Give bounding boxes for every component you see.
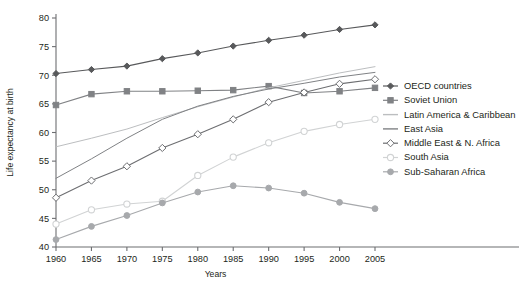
series-east-asia [56, 72, 375, 178]
series-line [56, 79, 375, 197]
chart-svg: 404550556065707580 196019651970197519801… [0, 0, 531, 292]
legend-label: East Asia [404, 123, 444, 134]
data-point-open-diamond [387, 140, 394, 147]
data-point-open-circle [195, 172, 201, 178]
legend-label: Latin America & Caribbean [404, 109, 516, 120]
series-line [56, 25, 375, 74]
data-point-open-diamond [52, 194, 59, 201]
data-point-filled-square [231, 87, 236, 92]
data-point-filled-circle [230, 183, 236, 189]
data-point-filled-diamond [195, 50, 201, 56]
data-point-filled-circle [124, 213, 130, 219]
y-tick-label: 65 [39, 99, 49, 109]
x-tick-label: 1980 [188, 254, 208, 264]
legend-item-sub-saharan-africa[interactable]: Sub-Saharan Africa [383, 166, 486, 177]
data-point-filled-circle [89, 223, 95, 229]
data-point-open-diamond [230, 116, 237, 123]
legend-label: South Asia [404, 151, 450, 162]
legend-item-east-asia[interactable]: East Asia [383, 123, 444, 134]
data-point-open-circle [88, 207, 94, 213]
data-point-open-circle [372, 116, 378, 122]
data-point-filled-diamond [301, 32, 307, 38]
data-point-filled-circle [159, 200, 165, 206]
data-point-open-circle [336, 121, 342, 127]
legend-item-latin-america-caribbean[interactable]: Latin America & Caribbean [383, 109, 516, 120]
data-point-open-diamond [371, 76, 378, 83]
data-point-filled-square [53, 102, 58, 107]
y-tick-label: 40 [39, 242, 49, 252]
legend-label: Sub-Saharan Africa [404, 166, 486, 177]
data-point-filled-circle [53, 237, 59, 243]
y-tick-label: 75 [39, 42, 49, 52]
data-point-filled-diamond [159, 56, 165, 62]
data-point-filled-square [124, 89, 129, 94]
data-point-open-diamond [194, 131, 201, 138]
data-point-filled-square [89, 91, 94, 96]
data-point-filled-diamond [336, 26, 342, 32]
x-tick-label: 1960 [46, 254, 66, 264]
series-south-asia [53, 116, 378, 227]
y-tick-label: 60 [39, 128, 49, 138]
series-group [52, 22, 378, 243]
y-tick-label: 55 [39, 156, 49, 166]
y-tick-label: 50 [39, 185, 49, 195]
y-axis-title: Life expectancy at birth [5, 88, 15, 177]
y-tick-label: 80 [39, 13, 49, 23]
data-point-open-circle [53, 221, 59, 227]
legend-item-south-asia[interactable]: South Asia [383, 151, 450, 162]
x-axis-ticks: 1960196519701975198019851990199520002005 [46, 247, 385, 264]
data-point-filled-square [337, 89, 342, 94]
data-point-open-circle [230, 154, 236, 160]
data-point-filled-square [195, 88, 200, 93]
data-point-filled-diamond [266, 37, 272, 43]
series-soviet-union [53, 83, 377, 107]
data-point-filled-diamond [88, 66, 94, 72]
x-tick-label: 1975 [152, 254, 172, 264]
data-point-open-diamond [265, 99, 272, 106]
data-point-filled-circle [301, 190, 307, 196]
series-middle-east-n-africa [52, 76, 378, 202]
x-tick-label: 1990 [258, 254, 278, 264]
y-tick-label: 45 [39, 214, 49, 224]
data-point-open-diamond [336, 80, 343, 87]
legend-item-oecd-countries[interactable]: OECD countries [383, 80, 472, 91]
data-point-open-circle [124, 201, 130, 207]
legend-label: OECD countries [404, 80, 472, 91]
x-tick-label: 1970 [117, 254, 137, 264]
life-expectancy-chart: 404550556065707580 196019651970197519801… [0, 0, 531, 292]
data-point-filled-circle [266, 185, 272, 191]
data-point-filled-circle [388, 169, 394, 175]
data-point-open-circle [301, 128, 307, 134]
series-sub-saharan-africa [53, 183, 378, 243]
data-point-filled-circle [337, 199, 343, 205]
legend-item-soviet-union[interactable]: Soviet Union [383, 94, 457, 105]
legend-item-middle-east-n-africa[interactable]: Middle East & N. Africa [383, 137, 501, 148]
data-point-open-diamond [88, 177, 95, 184]
data-point-filled-diamond [124, 63, 130, 69]
data-point-filled-circle [195, 189, 201, 195]
y-tick-label: 70 [39, 71, 49, 81]
data-point-filled-diamond [387, 83, 393, 89]
y-axis-ticks: 404550556065707580 [39, 13, 56, 252]
x-tick-label: 1995 [294, 254, 314, 264]
data-point-filled-circle [372, 206, 378, 212]
data-point-open-diamond [159, 144, 166, 151]
legend-label: Middle East & N. Africa [404, 137, 501, 148]
series-line [56, 186, 375, 240]
data-point-open-circle [266, 140, 272, 146]
data-point-open-circle [387, 154, 393, 160]
chart-legend: OECD countriesSoviet UnionLatin America … [383, 80, 516, 177]
data-point-filled-square [388, 98, 393, 103]
x-tick-label: 2000 [329, 254, 349, 264]
x-tick-label: 1985 [223, 254, 243, 264]
legend-label: Soviet Union [404, 94, 457, 105]
x-tick-label: 2005 [365, 254, 385, 264]
series-oecd-countries [53, 22, 378, 77]
x-axis-title: Years [205, 269, 227, 279]
data-point-filled-diamond [230, 43, 236, 49]
series-line [56, 72, 375, 178]
data-point-open-diamond [123, 163, 130, 170]
data-point-filled-square [372, 85, 377, 90]
data-point-filled-diamond [372, 22, 378, 28]
x-tick-label: 1965 [81, 254, 101, 264]
